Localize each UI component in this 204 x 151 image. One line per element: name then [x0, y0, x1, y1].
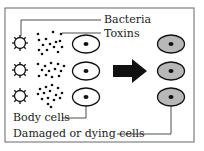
damaged-cells-label: Damaged or dying cells	[13, 127, 145, 140]
body-cells-label: Body cells	[13, 111, 70, 124]
bacterium-icon	[12, 35, 28, 51]
transition-arrow-icon	[113, 59, 147, 83]
damaged-cell	[158, 62, 185, 80]
toxin-damage-diagram: Bacteria Toxins	[0, 0, 204, 151]
damaged-cell	[158, 35, 185, 53]
body-cell	[73, 35, 100, 53]
bacteria-label: Bacteria	[104, 13, 152, 26]
toxin-cluster	[37, 62, 66, 79]
toxins-label: Toxins	[104, 27, 140, 40]
bacterium-icon	[12, 88, 28, 104]
damaged-cell	[158, 88, 185, 106]
toxin-cluster	[37, 31, 64, 56]
body-cell	[73, 88, 100, 106]
body-cell	[73, 62, 100, 80]
bacterium-icon	[12, 62, 28, 78]
toxin-cluster	[37, 84, 64, 109]
